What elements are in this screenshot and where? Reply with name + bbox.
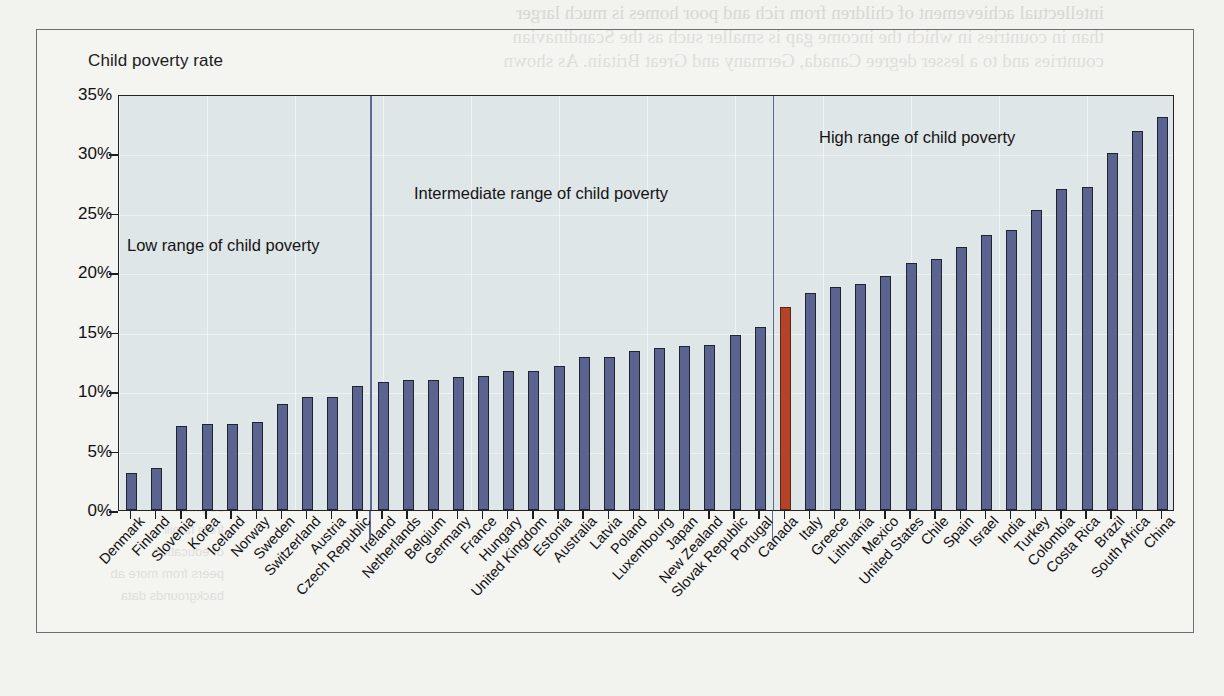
y-tick-mark	[109, 333, 118, 335]
x-axis-labels: DenmarkFinlandSloveniaKoreaIcelandNorway…	[118, 513, 1174, 663]
y-tick-label: 30%	[78, 144, 112, 164]
y-tick-mark	[109, 511, 118, 513]
y-tick-label: 35%	[78, 85, 112, 105]
y-tick-mark	[109, 452, 118, 454]
y-tick-mark	[109, 392, 118, 394]
y-tick-label: 10%	[78, 382, 112, 402]
y-tick-label: 15%	[78, 323, 112, 343]
y-tick-label: 25%	[78, 204, 112, 224]
y-tick-label: 20%	[78, 263, 112, 283]
y-tick-mark	[109, 154, 118, 156]
y-tick-mark	[109, 273, 118, 275]
y-tick-mark	[109, 214, 118, 216]
